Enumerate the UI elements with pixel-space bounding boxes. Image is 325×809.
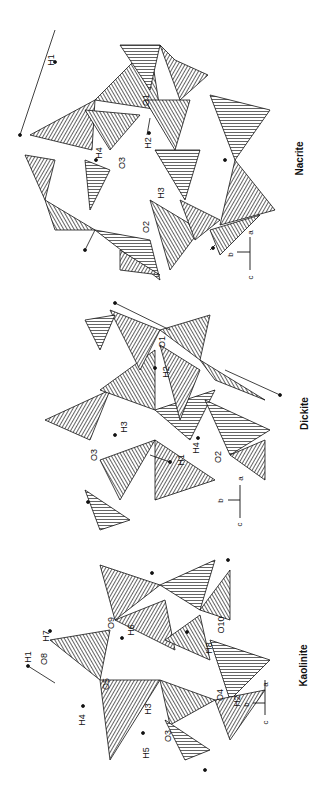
axis-label-a: a [261,682,270,686]
axis-label-c: c [246,276,255,280]
kaolinite-structure [50,560,270,760]
panel-title-kaolinite: Kaolinite [298,644,309,686]
axis-label-a: a [246,230,255,234]
panel-title-dickite: Dickite [299,397,310,430]
atom-label: H8 [204,642,214,654]
atom-label: O9 [106,617,116,629]
atom-label: O2 [213,451,223,463]
atom-label: O1 [157,336,167,348]
axis-label-b: b [226,252,235,256]
atom-label: H4 [77,714,87,726]
atom-label: H1 [176,454,186,466]
atom-label: O8 [39,653,49,665]
axis-label-c: c [261,721,270,725]
axis-label-a: a [236,476,245,480]
panel-title-nacrite: Nacrite [294,142,305,176]
axis-label-b: b [216,498,225,502]
atom-label: H2 [161,366,171,378]
atom-label: H6 [126,624,136,636]
atom-label: O3 [163,730,173,742]
atom-label: O3 [117,157,127,169]
atom-label: H5 [141,747,151,759]
atom-label: H2 [143,137,153,149]
atom-label: O4 [215,689,225,701]
atom-label: O3 [89,449,99,461]
atom-label: H1 [46,54,56,66]
atom-label: H3 [143,703,153,715]
atom-label: O1 [141,94,151,106]
axis-label-c: c [235,523,244,527]
atom-label: O10 [216,616,226,633]
nacrite-structure [25,45,275,280]
atom-label: H3 [156,187,166,199]
axis-label-b: b [242,702,251,706]
atom-label: O2 [141,221,151,233]
atom-label: H2 [232,695,242,707]
atom-label: H3 [119,421,129,433]
atom-label: H4 [191,442,201,454]
atom-label: H7 [41,630,51,642]
atom-label: H1 [23,651,33,663]
atom-label: H4 [94,147,104,159]
crystal-structure-drawing [0,0,325,809]
atom-label: O5 [101,678,111,690]
